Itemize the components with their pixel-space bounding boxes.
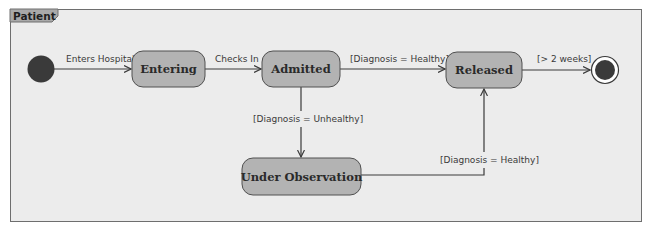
transition-label: [Diagnosis = Unhealthy] [253,114,363,124]
transition-enters-hospital[interactable]: Enters Hospital [54,54,134,69]
state-admitted[interactable]: Admitted [262,51,340,87]
transition-label: [Diagnosis = Healthy] [350,54,449,64]
transition-admitted-under-observation[interactable]: [Diagnosis = Unhealthy] [253,87,363,157]
state-label: Entering [140,62,197,76]
transition-checks-in[interactable]: Checks In [205,54,261,69]
state-diagram: Patient Enters Hospital Checks In [Diagn… [0,0,651,232]
state-label: Under Observation [241,170,363,184]
frame-tab-label: Patient [13,10,56,22]
transition-admitted-released[interactable]: [Diagnosis = Healthy] [340,54,449,69]
state-under-observation[interactable]: Under Observation [241,158,363,195]
state-label: Admitted [270,62,330,76]
transition-label: Enters Hospital [66,54,134,64]
transition-label: [Diagnosis = Healthy] [440,155,539,165]
transition-released-final[interactable]: [> 2 weeks] [522,54,591,70]
final-state-icon[interactable] [592,57,619,84]
state-released[interactable]: Released [446,52,522,88]
initial-state-icon[interactable] [28,56,55,83]
state-label: Released [455,63,513,77]
transition-label: [> 2 weeks] [537,54,591,64]
frame-tab: Patient [10,9,58,22]
state-entering[interactable]: Entering [132,51,205,87]
transition-under-observation-released[interactable]: [Diagnosis = Healthy] [361,89,539,175]
transition-label: Checks In [215,54,259,64]
